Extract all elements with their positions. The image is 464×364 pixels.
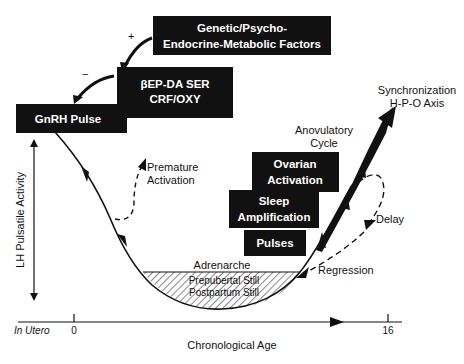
y-axis-up-arrow-icon bbox=[30, 139, 38, 147]
svg-text:Genetic/Psycho-: Genetic/Psycho- bbox=[197, 22, 287, 34]
box-ovarian-activation: Ovarian Activation bbox=[252, 152, 339, 192]
svg-text:Prepubertal Still: Prepubertal Still bbox=[189, 275, 260, 286]
label-delay: Delay bbox=[376, 213, 405, 225]
box-gnrh-pulse: GnRH Pulse bbox=[16, 104, 127, 133]
box-genetic-factors: Genetic/Psycho- Endocrine-Metabolic Fact… bbox=[153, 16, 331, 55]
svg-text:Activation: Activation bbox=[147, 174, 195, 186]
box-neurotransmitters: βEP-DA SER CRF/OXY bbox=[117, 67, 233, 118]
label-regression: Regression bbox=[318, 264, 374, 276]
delay-arrowhead-icon bbox=[364, 220, 376, 230]
x-axis-arrow-icon bbox=[330, 317, 344, 327]
label-still-periods: Prepubertal Still Postpartum Still bbox=[186, 274, 260, 300]
label-premature-activation: Premature Activation bbox=[147, 161, 198, 186]
y-axis: LH Pulsatile Activity bbox=[14, 139, 38, 301]
premature-activation-branch bbox=[115, 158, 146, 220]
svg-text:Activation: Activation bbox=[267, 174, 323, 186]
svg-text:Cycle: Cycle bbox=[310, 137, 338, 149]
plus-sign: + bbox=[128, 30, 134, 42]
svg-text:βEP-DA SER: βEP-DA SER bbox=[140, 78, 210, 90]
svg-text:Postpartum Still: Postpartum Still bbox=[189, 287, 259, 298]
svg-text:Synchronization: Synchronization bbox=[378, 84, 456, 96]
svg-text:Amplification: Amplification bbox=[238, 211, 311, 223]
minus-arrowhead-icon bbox=[73, 95, 83, 104]
label-synchronization: Synchronization H-P-O Axis bbox=[378, 84, 456, 109]
svg-text:Anovulatory: Anovulatory bbox=[295, 124, 354, 136]
y-axis-down-arrow-icon bbox=[30, 293, 38, 301]
svg-text:Endocrine-Metabolic Factors: Endocrine-Metabolic Factors bbox=[163, 38, 321, 50]
svg-text:Sleep: Sleep bbox=[259, 195, 290, 207]
svg-text:H-P-O Axis: H-P-O Axis bbox=[390, 97, 445, 109]
x-axis-label: Chronological Age bbox=[187, 339, 276, 351]
x-start-label: In Utero bbox=[14, 325, 50, 336]
svg-text:Premature: Premature bbox=[147, 161, 198, 173]
x-axis: In Utero 0 16 Chronological Age bbox=[14, 314, 402, 351]
svg-text:CRF/OXY: CRF/OXY bbox=[149, 93, 200, 105]
label-anovulatory-cycle: Anovulatory Cycle bbox=[295, 124, 354, 149]
svg-text:GnRH Pulse: GnRH Pulse bbox=[35, 113, 101, 125]
svg-text:Pulses: Pulses bbox=[256, 237, 293, 249]
box-sleep-amplification: Sleep Amplification bbox=[229, 190, 319, 228]
label-adrenarche: Adrenarche bbox=[194, 259, 251, 271]
arrow-down-1-icon bbox=[81, 166, 89, 182]
y-axis-label: LH Pulsatile Activity bbox=[14, 172, 26, 268]
tick-0-label: 0 bbox=[71, 325, 77, 336]
minus-sign: − bbox=[82, 68, 88, 80]
svg-text:Ovarian: Ovarian bbox=[274, 158, 317, 170]
premature-arrowhead-icon bbox=[138, 158, 146, 171]
tick-16-label: 16 bbox=[382, 325, 394, 336]
box-pulses: Pulses bbox=[244, 230, 306, 256]
puberty-lh-diagram: + − Genetic/Psycho- Endocrine-Metabolic … bbox=[0, 0, 464, 364]
